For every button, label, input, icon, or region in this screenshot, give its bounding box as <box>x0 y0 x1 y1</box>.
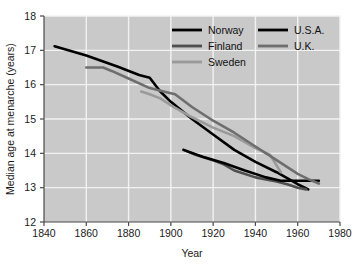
x-tick-label: 1980 <box>328 227 352 239</box>
line-chart: 1213141516171818401860188019001920194019… <box>0 0 361 265</box>
x-tick-label: 1940 <box>244 227 268 239</box>
legend-label-usa: U.S.A. <box>294 24 324 36</box>
y-tick-label: 12 <box>24 216 36 228</box>
legend-label-finland: Finland <box>208 40 243 52</box>
y-tick-label: 13 <box>24 181 36 193</box>
y-tick-label: 18 <box>24 10 36 22</box>
legend-label-sweden: Sweden <box>208 56 246 68</box>
x-tick-label: 1960 <box>286 227 310 239</box>
x-tick-label: 1920 <box>201 227 225 239</box>
y-tick-label: 14 <box>24 147 36 159</box>
legend-label-norway: Norway <box>208 24 244 36</box>
x-tick-label: 1860 <box>75 227 99 239</box>
x-tick-label: 1880 <box>117 227 141 239</box>
x-tick-label: 1840 <box>32 227 56 239</box>
x-tick-label: 1900 <box>159 227 183 239</box>
y-tick-label: 16 <box>24 78 36 90</box>
x-axis-title: Year <box>181 247 203 259</box>
y-axis-title: Median age at menarche (years) <box>4 43 16 195</box>
y-tick-label: 15 <box>24 113 36 125</box>
legend-label-uk: U.K. <box>294 40 314 52</box>
chart-container: 1213141516171818401860188019001920194019… <box>0 0 361 265</box>
y-tick-label: 17 <box>24 44 36 56</box>
